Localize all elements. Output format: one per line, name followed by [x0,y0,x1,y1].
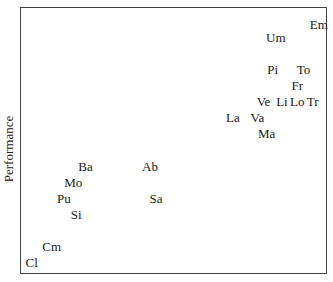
data-point-label: Ab [142,159,158,172]
data-point-label: Pi [267,63,278,76]
data-point-label: Cl [26,255,38,268]
data-point-label: Va [251,111,265,124]
data-point-label: Em [310,18,328,31]
data-point-label: Si [71,207,82,220]
data-point-label: Cm [42,239,61,252]
data-point-label: Lo [290,95,304,108]
plot-area: EmUmPiToFrVeLiLoTrLaVaMaBaAbMoPuSaSiCmCl [20,7,327,274]
data-point-label: Ve [257,95,271,108]
y-axis-label: Performance [1,109,17,189]
data-point-label: Um [266,31,286,44]
data-point-label: Sa [150,191,163,204]
data-point-label: Tr [307,95,319,108]
data-point-label: Li [276,95,288,108]
data-point-label: Fr [292,79,304,92]
data-point-label: La [226,111,240,124]
data-point-label: To [297,63,311,76]
data-point-label: Mo [64,175,82,188]
data-point-label: Ba [78,159,92,172]
data-point-label: Pu [57,191,71,204]
data-point-label: Ma [258,127,275,140]
